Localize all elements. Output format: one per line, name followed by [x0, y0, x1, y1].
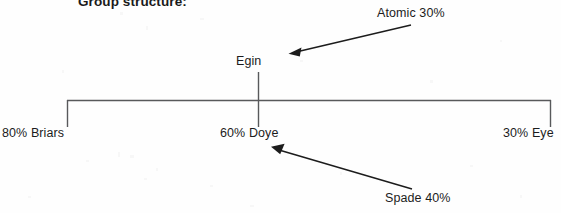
connector-lines — [0, 0, 561, 213]
node-label-briars: 80% Briars — [2, 127, 64, 140]
node-label-egin: Egin — [236, 55, 261, 68]
annotation-label-spade: Spade 40% — [385, 192, 451, 205]
arrow-atomic-to-egin — [289, 25, 412, 57]
node-label-eye: 30% Eye — [503, 127, 554, 140]
arrow-spade-to-doye — [271, 144, 412, 189]
page-title: Group structure: — [78, 0, 187, 8]
node-label-doye: 60% Doye — [220, 127, 278, 140]
annotation-label-atomic: Atomic 30% — [377, 7, 445, 20]
diagram-canvas: Group structure: Egin 80% Briars 60% Doy… — [0, 0, 561, 213]
